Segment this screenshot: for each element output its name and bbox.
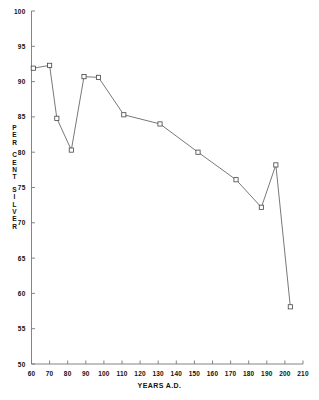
y-axis-tick-label: 65 bbox=[8, 255, 26, 262]
data-point-marker bbox=[259, 205, 263, 209]
y-axis-tick-label: 85 bbox=[8, 113, 26, 120]
data-point-marker bbox=[48, 63, 52, 67]
x-axis-tick-label: 60 bbox=[22, 370, 42, 377]
y-axis-title-letter: E bbox=[9, 131, 20, 138]
data-point-marker bbox=[82, 75, 86, 79]
data-point-marker bbox=[274, 163, 278, 167]
data-point-marker bbox=[122, 113, 126, 117]
plot-area bbox=[0, 0, 319, 400]
x-axis-tick-label: 80 bbox=[58, 370, 78, 377]
x-axis-tick-label: 120 bbox=[130, 370, 150, 377]
data-point-marker bbox=[31, 66, 35, 70]
data-point-marker bbox=[96, 75, 100, 79]
x-axis-title: YEARS A.D. bbox=[0, 382, 319, 389]
y-axis-title-letter: V bbox=[9, 208, 20, 215]
y-axis-title-letter: P bbox=[9, 124, 20, 131]
y-axis-title-letter: L bbox=[9, 201, 20, 208]
x-axis-tick-label: 210 bbox=[293, 370, 313, 377]
data-point-marker bbox=[69, 148, 73, 152]
x-axis-tick-label: 170 bbox=[221, 370, 241, 377]
x-axis-tick-label: 180 bbox=[239, 370, 259, 377]
data-point-marker bbox=[288, 305, 292, 309]
x-axis-tick-label: 100 bbox=[94, 370, 114, 377]
x-axis-tick-label: 130 bbox=[148, 370, 168, 377]
y-axis-tick-label: 80 bbox=[8, 149, 26, 156]
y-axis-tick-label: 50 bbox=[8, 361, 26, 368]
data-point-marker bbox=[158, 122, 162, 126]
x-axis-tick-label: 150 bbox=[184, 370, 204, 377]
x-axis-tick-label: 140 bbox=[166, 370, 186, 377]
data-point-marker bbox=[55, 116, 59, 120]
silver-content-line-chart: PERCENTSILVER YEARS A.D. 505560657075808… bbox=[0, 0, 319, 400]
y-axis-tick-label: 100 bbox=[8, 8, 26, 15]
x-axis-tick-label: 200 bbox=[275, 370, 295, 377]
y-axis-title: PERCENTSILVER bbox=[9, 124, 20, 230]
y-axis-title-letter: E bbox=[9, 159, 20, 166]
x-axis-tick-label: 90 bbox=[76, 370, 96, 377]
y-axis-title-letter: R bbox=[9, 139, 20, 146]
y-axis-tick-label: 70 bbox=[8, 219, 26, 226]
data-series-line bbox=[33, 65, 290, 306]
y-axis-tick-label: 55 bbox=[8, 325, 26, 332]
x-axis-tick-label: 160 bbox=[203, 370, 223, 377]
y-axis-tick-label: 75 bbox=[8, 184, 26, 191]
data-point-marker bbox=[196, 150, 200, 154]
y-axis-title-letter: T bbox=[9, 173, 20, 180]
y-axis-title-letter: N bbox=[9, 166, 20, 173]
data-point-marker bbox=[234, 178, 238, 182]
x-axis-tick-label: 190 bbox=[257, 370, 277, 377]
x-axis-tick-label: 70 bbox=[40, 370, 60, 377]
y-axis-tick-label: 90 bbox=[8, 78, 26, 85]
x-axis-tick-label: 110 bbox=[112, 370, 132, 377]
y-axis-tick-label: 60 bbox=[8, 290, 26, 297]
y-axis-title-letter: I bbox=[9, 193, 20, 200]
y-axis-tick-label: 95 bbox=[8, 43, 26, 50]
